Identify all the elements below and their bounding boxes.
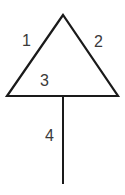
label-base: 3 (40, 73, 49, 89)
triangle-on-stem-diagram: 1 2 3 4 (0, 0, 125, 195)
triangle-shape (7, 15, 118, 96)
diagram-canvas (0, 0, 125, 195)
label-left-side: 1 (22, 33, 31, 49)
label-stem: 4 (45, 128, 54, 144)
label-right-side: 2 (94, 34, 103, 50)
